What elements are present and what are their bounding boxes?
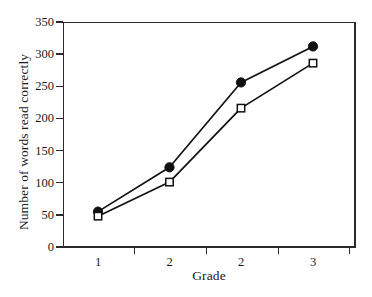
y-axis-tick-label: 300 [14, 48, 54, 60]
y-axis-tick [56, 214, 63, 215]
x-axis-tick-label: 2 [155, 255, 185, 269]
x-axis-tick-label: 2 [226, 255, 256, 269]
y-axis-tick-label: 0 [14, 241, 54, 253]
chart-figure: Number of words read correctly 050100150… [0, 0, 372, 297]
x-axis-tick [349, 247, 350, 254]
x-axis-title: Grade [63, 268, 355, 284]
y-axis-tick [56, 246, 63, 247]
y-axis-tick [56, 21, 63, 22]
x-axis-tick-label: 1 [83, 255, 113, 269]
x-axis-tick [206, 247, 207, 254]
y-axis-tick [56, 118, 63, 119]
y-axis-tick-label: 200 [14, 112, 54, 124]
y-axis-tick [56, 150, 63, 151]
y-axis-tick-label: 50 [14, 209, 54, 221]
y-axis-tick [56, 53, 63, 54]
right-axis-line [354, 22, 356, 248]
y-axis-tick-label: 150 [14, 145, 54, 157]
y-axis-tick-label: 250 [14, 80, 54, 92]
y-axis-tick [56, 182, 63, 183]
x-axis-tick-label: 3 [298, 255, 328, 269]
x-axis-line [63, 246, 356, 248]
x-axis-tick [278, 247, 279, 254]
x-axis-tick [134, 247, 135, 254]
y-axis-tick-label: 100 [14, 177, 54, 189]
plot-frame [63, 22, 355, 247]
y-axis-tick [56, 86, 63, 87]
y-axis-tick-label: 350 [14, 16, 54, 28]
